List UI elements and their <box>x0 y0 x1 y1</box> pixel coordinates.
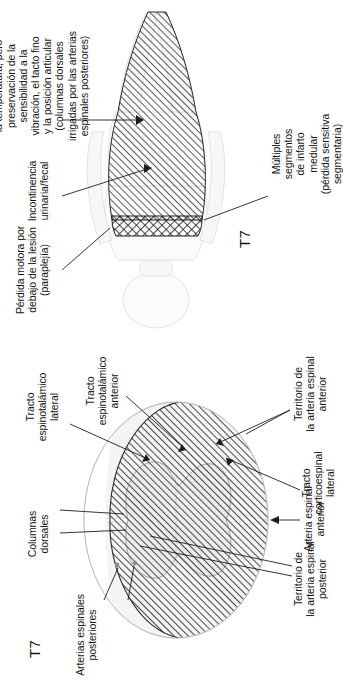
posterior-spinal-artery-dot-left <box>115 563 120 568</box>
label-tracto-espinotalamico-lateral: Tracto espinotalámico lateral <box>24 364 61 450</box>
head-outline <box>123 272 189 328</box>
label-incontinencia: Incontinencia urinaria/fecal <box>26 150 50 232</box>
cord-level-label-t7: T7 <box>26 640 43 658</box>
sensory-motor-loss-hatch <box>109 12 206 220</box>
leader-territorio-anterior-2 <box>246 410 290 434</box>
neck-outline <box>140 260 172 276</box>
label-multiples-segmentos-infarto: Múltiples segmentos de infarto medular (… <box>270 96 343 212</box>
label-territorio-arteria-espinal-posterior: Territorio de la arteria espinal posteri… <box>292 524 329 634</box>
label-tracto-espinotalamico-anterior: Tracto espinotalámico anterior <box>84 348 121 434</box>
panel-body-dermatome-figure: T7 Pérdida motora por debajo de la lesió… <box>0 0 334 344</box>
panel-spinal-cord-cross-section: T7 Arterias espinales posteriores Column… <box>0 344 334 696</box>
posterior-spinal-artery-dot-right <box>133 561 137 565</box>
label-tracto-corticoespinal-lateral: Tracto corticoespinal lateral <box>300 442 337 524</box>
leader-perdida-motora <box>62 228 110 270</box>
body-level-label-t7: T7 <box>236 230 253 248</box>
arrowhead-arteria-espinal-anterior <box>270 516 279 524</box>
label-arterias-espinales-posteriores: Arterias espinales posteriores <box>74 590 98 680</box>
label-columnas-dorsales: Columnas dorsales <box>26 502 50 566</box>
label-territorio-arteria-espinal-anterior: Territorio de la arteria espinal anterio… <box>292 342 329 446</box>
segmental-infarct-crosshatch-band <box>112 216 202 236</box>
label-perdida-sensibilidad: Pérdida de la sensibilidad al dolor y la… <box>0 10 90 162</box>
deficit-shading-group <box>109 12 206 236</box>
infarct-hatch-region <box>110 402 276 639</box>
